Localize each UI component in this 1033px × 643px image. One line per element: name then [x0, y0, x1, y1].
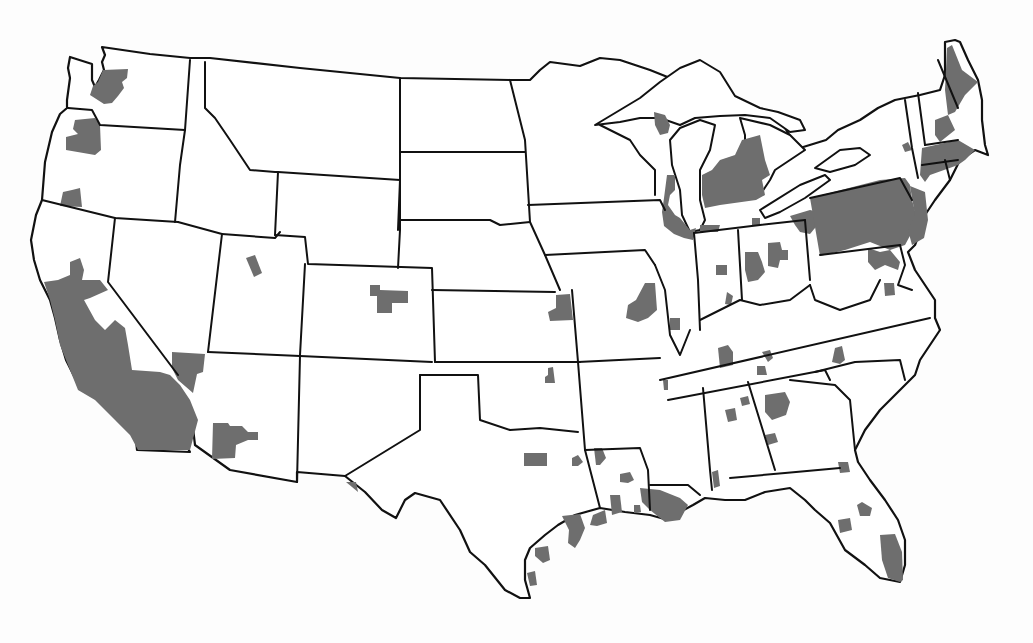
region-richmond — [884, 283, 895, 296]
region-victoria — [535, 546, 550, 563]
us-land-outline — [31, 40, 988, 598]
region-houston — [562, 514, 585, 548]
region-el-paso — [346, 482, 358, 492]
region-beaumont — [590, 510, 607, 526]
region-dallas — [524, 453, 547, 466]
region-lake-charles — [610, 495, 622, 515]
region-springfield-il — [670, 318, 680, 330]
us-map-svg — [0, 0, 1033, 643]
region-corpus-christi — [527, 571, 537, 586]
region-indianapolis — [716, 265, 727, 275]
region-louisiana-minor — [634, 505, 641, 513]
us-map — [0, 0, 1033, 643]
